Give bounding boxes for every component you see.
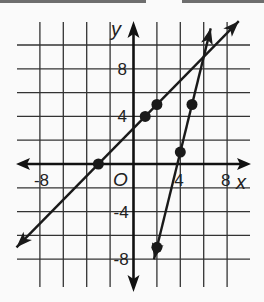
line-2-point [187,99,198,110]
tick-labels: y x O -84884-4-8 [34,18,247,269]
coordinate-plane: y x O -84884-4-8 [0,0,264,302]
y-tick-label: -8 [114,250,129,269]
line-2-point [151,242,162,253]
line-2-point [175,147,186,158]
y-tick-label: -4 [114,203,129,222]
line-1-point [151,99,162,110]
line-1-point [93,159,104,170]
x-tick-label: -8 [34,171,49,190]
x-tick-label: 8 [221,171,230,190]
x-axis-label: x [235,171,247,193]
line-1-point [140,111,151,122]
y-tick-label: 4 [118,107,127,126]
line-2 [154,28,211,259]
x-tick-label: 4 [174,171,183,190]
origin-label: O [113,169,128,190]
y-tick-label: 8 [118,60,127,79]
axes [16,21,251,292]
y-axis-label: y [109,18,122,40]
